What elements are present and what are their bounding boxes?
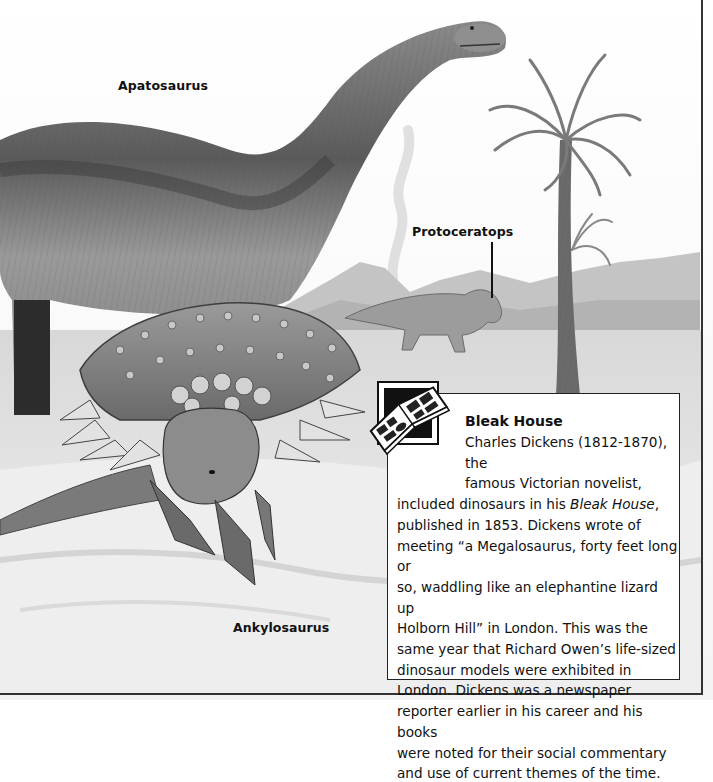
infobox-text: included dinosaurs in his — [397, 496, 570, 512]
infobox-title: Bleak House — [465, 413, 563, 429]
infobox-line: included dinosaurs in his Bleak House, — [397, 494, 679, 515]
infobox-line: famous Victorian novelist, — [397, 473, 679, 494]
page-frame-right — [701, 0, 703, 695]
infobox-line: Holborn Hill” in London. This was the — [397, 618, 679, 639]
open-book-icon — [360, 370, 452, 460]
infobox-line: and use of current themes of the time. — [397, 763, 679, 782]
label-ankylosaurus: Ankylosaurus — [233, 620, 329, 635]
infobox-text: , — [655, 496, 659, 512]
infobox-line: same year that Richard Owen’s life-sized — [397, 639, 679, 660]
infobox-line: meeting “a Megalosaurus, forty feet long… — [397, 536, 679, 577]
infobox-body: Charles Dickens (1812-1870), the famous … — [397, 432, 679, 782]
label-apatosaurus: Apatosaurus — [118, 78, 208, 93]
infobox-line: published in 1853. Dickens wrote of — [397, 515, 679, 536]
infobox-line: London. Dickens was a newspaper — [397, 680, 679, 701]
infobox-line: were noted for their social commentary — [397, 743, 679, 764]
infobox-line: reporter earlier in his career and his b… — [397, 701, 679, 742]
protoceratops-leader-line — [491, 242, 493, 298]
label-protoceratops: Protoceratops — [412, 224, 513, 239]
infobox-book-title: Bleak House — [570, 496, 655, 512]
infobox-line: so, waddling like an elephantine lizard … — [397, 577, 679, 618]
infobox-line: dinosaur models were exhibited in — [397, 660, 679, 681]
